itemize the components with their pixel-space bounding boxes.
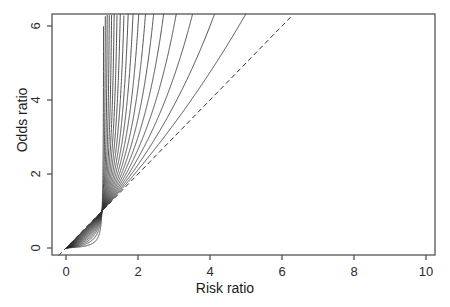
- x-tick-label: 4: [206, 265, 213, 278]
- x-tick-label: 2: [134, 265, 141, 278]
- figure-background: [0, 0, 450, 307]
- y-tick-label: 2: [29, 170, 42, 177]
- y-tick-label: 0: [29, 244, 42, 251]
- plot-canvas: [0, 0, 450, 307]
- x-tick-label: 8: [350, 265, 357, 278]
- figure-container: 0246810 0246 Risk ratio Odds ratio: [0, 0, 450, 307]
- y-axis-label-wrapper: Odds ratio: [14, 70, 34, 170]
- x-tick-label: 6: [278, 265, 285, 278]
- x-tick-label: 0: [62, 265, 69, 278]
- y-axis-label: Odds ratio: [14, 88, 30, 153]
- x-axis-label: Risk ratio: [0, 280, 450, 296]
- x-tick-label: 10: [419, 265, 433, 278]
- y-tick-label: 6: [29, 22, 42, 29]
